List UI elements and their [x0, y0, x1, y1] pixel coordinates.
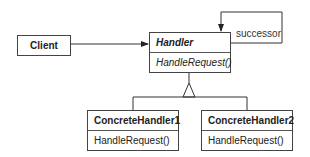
concrete-handler1-name: ConcreteHandler1 [88, 111, 178, 130]
concrete-handler2-name: ConcreteHandler2 [202, 111, 292, 130]
handler-operation: HandleRequest() [150, 52, 230, 72]
concrete-handler1-class: ConcreteHandler1 HandleRequest() [87, 110, 179, 151]
client-class-name: Client [18, 36, 70, 55]
handler-class-name: Handler [150, 33, 230, 52]
inheritance-triangle-icon [183, 83, 195, 97]
concrete-handler2-operation: HandleRequest() [202, 130, 292, 150]
inheritance-branches [133, 97, 247, 110]
concrete-handler2-class: ConcreteHandler2 HandleRequest() [201, 110, 293, 151]
concrete-handler1-operation: HandleRequest() [88, 130, 178, 150]
client-class: Client [17, 35, 71, 56]
handler-class: Handler HandleRequest() [149, 32, 231, 73]
successor-label: successor [236, 28, 281, 39]
